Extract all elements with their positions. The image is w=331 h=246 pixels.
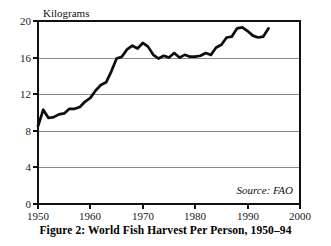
line-chart: 20 16 12 8 4 0 1950 1960 1970 1980 1990 … xyxy=(0,0,331,246)
y-tick-label-4: 4 xyxy=(26,161,32,173)
y-axis-tick-labels: 20 16 12 8 4 0 xyxy=(20,15,32,210)
y-tick-label-8: 8 xyxy=(26,125,32,137)
source-annotation: Source: FAO xyxy=(236,184,293,196)
x-tick-label-1970: 1970 xyxy=(132,210,155,222)
plot-frame xyxy=(38,21,300,204)
y-tick-label-20: 20 xyxy=(20,15,32,27)
figure-caption: Figure 2: World Fish Harvest Per Person,… xyxy=(0,224,331,236)
y-tick-label-16: 16 xyxy=(20,52,32,64)
gridline-group xyxy=(38,21,300,167)
y-tick-label-0: 0 xyxy=(26,198,32,210)
x-tick-label-1960: 1960 xyxy=(79,210,102,222)
x-tick-label-1950: 1950 xyxy=(27,210,50,222)
figure-container: 20 16 12 8 4 0 1950 1960 1970 1980 1990 … xyxy=(0,0,331,246)
y-tick-label-12: 12 xyxy=(20,88,31,100)
data-series-line xyxy=(38,27,269,126)
x-tick-label-1990: 1990 xyxy=(237,210,260,222)
x-tick-label-1980: 1980 xyxy=(184,210,207,222)
y-axis-unit-label: Kilograms xyxy=(43,7,89,19)
x-tick-label-2000: 2000 xyxy=(289,210,312,222)
x-axis-tick-labels: 1950 1960 1970 1980 1990 2000 xyxy=(27,210,312,222)
